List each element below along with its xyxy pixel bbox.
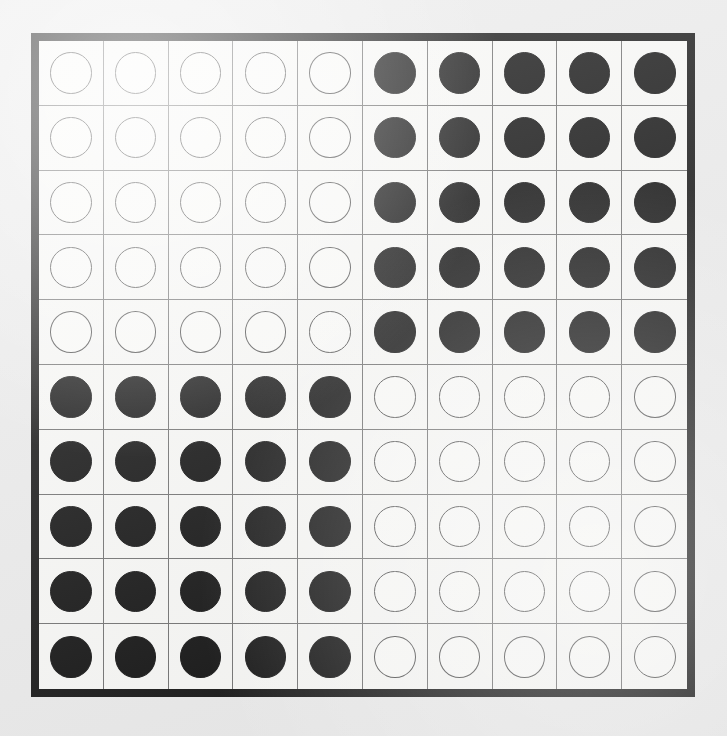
black-piece-icon[interactable] xyxy=(245,506,286,547)
black-piece-icon[interactable] xyxy=(504,52,545,93)
black-piece-icon[interactable] xyxy=(504,311,545,352)
black-piece-icon[interactable] xyxy=(634,311,676,352)
board-cell[interactable] xyxy=(363,300,428,365)
board-cell[interactable] xyxy=(169,430,234,495)
white-piece-icon[interactable] xyxy=(504,441,545,482)
board-cell[interactable] xyxy=(233,106,298,171)
white-piece-icon[interactable] xyxy=(504,571,545,612)
white-piece-icon[interactable] xyxy=(245,182,286,223)
board-cell[interactable] xyxy=(233,495,298,560)
black-piece-icon[interactable] xyxy=(374,247,415,288)
white-piece-icon[interactable] xyxy=(245,311,286,352)
board-cell[interactable] xyxy=(233,171,298,236)
board-cell[interactable] xyxy=(298,559,363,624)
board-cell[interactable] xyxy=(428,41,493,106)
board-cell[interactable] xyxy=(233,235,298,300)
white-piece-icon[interactable] xyxy=(245,52,286,93)
white-piece-icon[interactable] xyxy=(309,52,350,93)
board-cell[interactable] xyxy=(233,559,298,624)
white-piece-icon[interactable] xyxy=(439,376,480,417)
board-cell[interactable] xyxy=(363,235,428,300)
board-cell[interactable] xyxy=(233,430,298,495)
white-piece-icon[interactable] xyxy=(309,182,350,223)
board-cell[interactable] xyxy=(298,624,363,689)
board-cell[interactable] xyxy=(557,624,622,689)
black-piece-icon[interactable] xyxy=(180,636,221,678)
white-piece-icon[interactable] xyxy=(569,506,610,547)
board-cell[interactable] xyxy=(39,559,104,624)
black-piece-icon[interactable] xyxy=(439,247,480,288)
black-piece-icon[interactable] xyxy=(634,52,676,93)
board-cell[interactable] xyxy=(298,495,363,560)
board-cell[interactable] xyxy=(233,41,298,106)
board-cell[interactable] xyxy=(169,495,234,560)
black-piece-icon[interactable] xyxy=(115,506,156,547)
black-piece-icon[interactable] xyxy=(634,247,676,288)
board-cell[interactable] xyxy=(363,41,428,106)
white-piece-icon[interactable] xyxy=(180,311,221,352)
board-cell[interactable] xyxy=(493,624,558,689)
board-cell[interactable] xyxy=(493,300,558,365)
board-cell[interactable] xyxy=(557,495,622,560)
board-cell[interactable] xyxy=(298,365,363,430)
black-piece-icon[interactable] xyxy=(50,636,91,678)
white-piece-icon[interactable] xyxy=(115,117,156,158)
board-cell[interactable] xyxy=(39,365,104,430)
board-cell[interactable] xyxy=(557,430,622,495)
black-piece-icon[interactable] xyxy=(50,506,91,547)
board-cell[interactable] xyxy=(233,300,298,365)
board-cell[interactable] xyxy=(428,495,493,560)
white-piece-icon[interactable] xyxy=(115,311,156,352)
board-cell[interactable] xyxy=(493,495,558,560)
board-cell[interactable] xyxy=(169,365,234,430)
board-cell[interactable] xyxy=(104,495,169,560)
white-piece-icon[interactable] xyxy=(439,636,480,678)
board-cell[interactable] xyxy=(104,41,169,106)
black-piece-icon[interactable] xyxy=(309,441,350,482)
white-piece-icon[interactable] xyxy=(634,636,676,678)
board-cell[interactable] xyxy=(622,171,687,236)
white-piece-icon[interactable] xyxy=(309,311,350,352)
black-piece-icon[interactable] xyxy=(374,182,415,223)
white-piece-icon[interactable] xyxy=(50,311,91,352)
board-cell[interactable] xyxy=(39,106,104,171)
board-cell[interactable] xyxy=(169,300,234,365)
white-piece-icon[interactable] xyxy=(374,376,415,417)
white-piece-icon[interactable] xyxy=(180,52,221,93)
white-piece-icon[interactable] xyxy=(309,247,350,288)
board-cell[interactable] xyxy=(493,430,558,495)
black-piece-icon[interactable] xyxy=(439,117,480,158)
board-cell[interactable] xyxy=(104,106,169,171)
board-cell[interactable] xyxy=(622,365,687,430)
white-piece-icon[interactable] xyxy=(439,441,480,482)
black-piece-icon[interactable] xyxy=(180,571,221,612)
board-cell[interactable] xyxy=(557,171,622,236)
board-cell[interactable] xyxy=(298,235,363,300)
board-cell[interactable] xyxy=(622,624,687,689)
board-cell[interactable] xyxy=(363,495,428,560)
board-cell[interactable] xyxy=(428,365,493,430)
board-cell[interactable] xyxy=(298,171,363,236)
white-piece-icon[interactable] xyxy=(374,441,415,482)
board-cell[interactable] xyxy=(363,365,428,430)
white-piece-icon[interactable] xyxy=(374,506,415,547)
black-piece-icon[interactable] xyxy=(374,117,415,158)
board-cell[interactable] xyxy=(428,106,493,171)
white-piece-icon[interactable] xyxy=(439,571,480,612)
black-piece-icon[interactable] xyxy=(439,311,480,352)
white-piece-icon[interactable] xyxy=(180,182,221,223)
board-cell[interactable] xyxy=(169,559,234,624)
board-cell[interactable] xyxy=(622,106,687,171)
white-piece-icon[interactable] xyxy=(504,376,545,417)
black-piece-icon[interactable] xyxy=(504,182,545,223)
board-cell[interactable] xyxy=(557,365,622,430)
board-cell[interactable] xyxy=(493,559,558,624)
board-cell[interactable] xyxy=(39,430,104,495)
board-cell[interactable] xyxy=(557,559,622,624)
black-piece-icon[interactable] xyxy=(50,376,91,417)
board-cell[interactable] xyxy=(622,235,687,300)
board-cell[interactable] xyxy=(363,106,428,171)
white-piece-icon[interactable] xyxy=(634,571,676,612)
white-piece-icon[interactable] xyxy=(634,376,676,417)
board-cell[interactable] xyxy=(298,106,363,171)
